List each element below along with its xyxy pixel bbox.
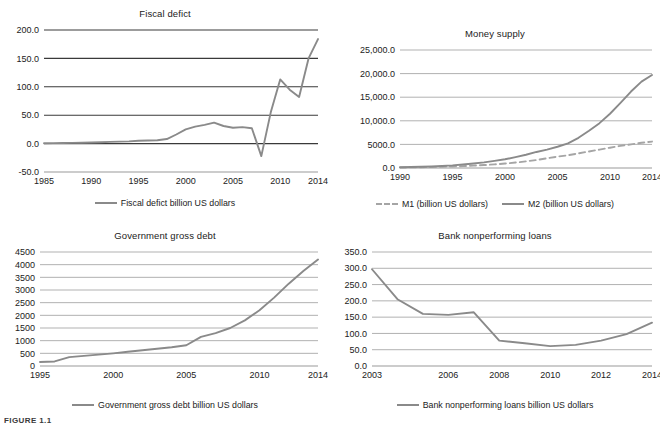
y-axis-tick-label: 300.0: [344, 263, 367, 273]
y-axis-tick-label: 150.0: [344, 312, 367, 322]
y-axis-tick-label: 50.0: [349, 345, 367, 355]
legend-item-fiscal-deficit: Fiscal defict billion US dollars: [95, 198, 235, 208]
x-axis-tick-label: 1990: [390, 172, 410, 182]
chart-panel-bank-nonperforming-loans: Bank nonperforming loans 0.050.0100.0150…: [330, 228, 660, 428]
series-line-solid: [40, 260, 318, 362]
y-axis-tick-label: 200.0: [344, 296, 367, 306]
chart-plot-bank-nonperforming-loans: 0.050.0100.0150.0200.0250.0300.0350.0200…: [330, 242, 660, 402]
legend-item-government-gross-debt: Government gross debt billion US dollars: [72, 400, 258, 410]
x-axis-tick-label: 2003: [362, 370, 382, 380]
y-axis-tick-label: 150.0: [16, 54, 39, 64]
legend-label: Fiscal defict billion US dollars: [121, 198, 235, 208]
legend-item-m1: M1 (billion US dollars): [376, 199, 488, 209]
chart-plot-fiscal-deficit: -50.00.050.0100.0150.0200.01985199019952…: [0, 20, 330, 210]
y-axis-tick-label: 350.0: [344, 247, 367, 257]
y-axis-tick-label: 20,000.0: [360, 69, 395, 79]
figure-caption: FIGURE 1.1: [4, 416, 52, 423]
x-axis-tick-label: 2010: [600, 172, 620, 182]
legend-item-bank-nonperforming-loans: Bank nonperforming loans billion US doll…: [397, 400, 594, 410]
y-axis-tick-label: 4500: [15, 247, 35, 257]
legend-swatch-line-icon: [397, 404, 419, 406]
y-axis-tick-label: 5000.0: [367, 140, 395, 150]
y-axis-tick-label: 100.0: [344, 329, 367, 339]
chart-title-government-gross-debt: Government gross debt: [0, 230, 330, 241]
legend-item-m2: M2 (billion US dollars): [502, 199, 614, 209]
chart-title-bank-nonperforming-loans: Bank nonperforming loans: [330, 230, 660, 241]
series-line-solid: [372, 269, 652, 346]
x-axis-tick-label: 2010: [540, 370, 560, 380]
y-axis-tick-label: 25,000.0: [360, 45, 395, 55]
x-axis-tick-label: 2000: [103, 370, 123, 380]
x-axis-tick-label: 2010: [270, 176, 290, 186]
legend-label: M2 (billion US dollars): [528, 199, 614, 209]
chart-legend-government-gross-debt: Government gross debt billion US dollars: [0, 400, 330, 410]
x-axis-tick-label: 2014: [308, 176, 328, 186]
x-axis-tick-label: 2014: [308, 370, 328, 380]
x-axis-tick-label: 2006: [438, 370, 458, 380]
y-axis-tick-label: 3000: [15, 285, 35, 295]
chart-panel-fiscal-deficit: Fiscal defict -50.00.050.0100.0150.0200.…: [0, 2, 330, 222]
y-axis-tick-label: 2000: [15, 311, 35, 321]
legend-label: Government gross debt billion US dollars: [98, 400, 258, 410]
x-axis-tick-label: 1995: [442, 172, 462, 182]
legend-swatch-line-icon: [72, 404, 94, 406]
x-axis-tick-label: 1995: [128, 176, 148, 186]
x-axis-tick-label: 2000: [495, 172, 515, 182]
chart-plot-money-supply: 0.05000.010,000.015,000.020,000.025,000.…: [330, 40, 660, 208]
y-axis-tick-label: 10,000.0: [360, 116, 395, 126]
x-axis-tick-label: 2005: [176, 370, 196, 380]
x-axis-tick-label: 2005: [547, 172, 567, 182]
chart-legend-fiscal-deficit: Fiscal defict billion US dollars: [0, 198, 330, 208]
chart-panel-money-supply: Money supply 0.05000.010,000.015,000.020…: [330, 2, 660, 222]
y-axis-tick-label: 200.0: [16, 25, 39, 35]
x-axis-tick-label: 2005: [223, 176, 243, 186]
x-axis-tick-label: 2014: [642, 172, 660, 182]
series-line-solid: [44, 39, 318, 156]
chart-plot-government-gross-debt: 0500100015002000250030003500400045001995…: [0, 242, 330, 402]
chart-title-fiscal-deficit: Fiscal defict: [0, 8, 330, 19]
legend-swatch-dashed-line-icon: [376, 203, 398, 205]
x-axis-tick-label: 1985: [34, 176, 54, 186]
y-axis-tick-label: 4000: [15, 260, 35, 270]
x-axis-tick-label: 2000: [176, 176, 196, 186]
x-axis-tick-label: 2014: [642, 370, 660, 380]
y-axis-tick-label: 500: [20, 349, 35, 359]
y-axis-tick-label: 250.0: [344, 280, 367, 290]
x-axis-tick-label: 1995: [30, 370, 50, 380]
chart-title-money-supply: Money supply: [330, 28, 660, 39]
y-axis-tick-label: 2500: [15, 298, 35, 308]
legend-swatch-line-icon: [502, 203, 524, 205]
chart-panel-government-gross-debt: Government gross debt 050010001500200025…: [0, 228, 330, 428]
chart-legend-money-supply: M1 (billion US dollars) M2 (billion US d…: [330, 199, 660, 209]
y-axis-tick-label: 0.0: [26, 139, 39, 149]
y-axis-tick-label: 50.0: [21, 110, 39, 120]
y-axis-tick-label: 100.0: [16, 82, 39, 92]
chart-legend-bank-nonperforming-loans: Bank nonperforming loans billion US doll…: [330, 400, 660, 410]
legend-label: M1 (billion US dollars): [402, 199, 488, 209]
y-axis-tick-label: 3500: [15, 273, 35, 283]
y-axis-tick-label: 1000: [15, 336, 35, 346]
x-axis-tick-label: 1990: [81, 176, 101, 186]
legend-label: Bank nonperforming loans billion US doll…: [423, 400, 594, 410]
y-axis-tick-label: 1500: [15, 323, 35, 333]
figure-panel-grid: Fiscal defict -50.00.050.0100.0150.0200.…: [0, 0, 660, 428]
x-axis-tick-label: 2008: [489, 370, 509, 380]
y-axis-tick-label: 15,000.0: [360, 92, 395, 102]
x-axis-tick-label: 2012: [591, 370, 611, 380]
legend-swatch-line-icon: [95, 202, 117, 204]
x-axis-tick-label: 2010: [249, 370, 269, 380]
